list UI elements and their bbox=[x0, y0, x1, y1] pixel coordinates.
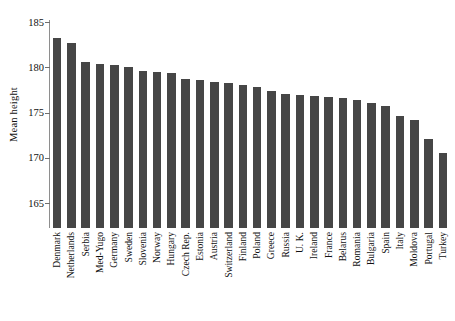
x-tick-label: Finland bbox=[238, 232, 248, 261]
x-tick-label-slot: Netherlands bbox=[64, 228, 78, 321]
y-tick-label: 180 bbox=[28, 60, 44, 75]
x-tick-label-slot: Norway bbox=[150, 228, 164, 321]
bar[interactable] bbox=[96, 64, 105, 228]
x-axis-tick-labels: DenmarkNetherlandsSerbiaMed-YugoGermanyS… bbox=[50, 228, 454, 321]
bar-column[interactable] bbox=[253, 0, 262, 228]
x-tick-label: Germany bbox=[109, 232, 119, 268]
bar[interactable] bbox=[81, 62, 90, 228]
bar[interactable] bbox=[110, 65, 119, 228]
bar[interactable] bbox=[139, 71, 148, 228]
bar[interactable] bbox=[381, 106, 390, 228]
x-tick-label-slot: Czech Rep. bbox=[179, 228, 193, 321]
bar[interactable] bbox=[424, 139, 433, 228]
bar[interactable] bbox=[210, 82, 219, 228]
bar-column[interactable] bbox=[396, 0, 405, 228]
bar-column[interactable] bbox=[267, 0, 276, 228]
bar[interactable] bbox=[196, 80, 205, 228]
x-tick-label: Bulgaria bbox=[366, 232, 376, 265]
x-tick-label: Slovenia bbox=[138, 232, 148, 266]
bar[interactable] bbox=[53, 38, 62, 228]
bar[interactable] bbox=[296, 95, 305, 228]
x-tick-label: Norway bbox=[152, 232, 162, 263]
bar-column[interactable] bbox=[353, 0, 362, 228]
bar[interactable] bbox=[67, 43, 76, 228]
x-tick-label: Portugal bbox=[424, 232, 434, 265]
x-tick-label-slot: Romania bbox=[350, 228, 364, 321]
bar-column[interactable] bbox=[124, 0, 133, 228]
bar[interactable] bbox=[310, 96, 319, 228]
bar[interactable] bbox=[439, 153, 448, 228]
bar-column[interactable] bbox=[239, 0, 248, 228]
bar[interactable] bbox=[396, 116, 405, 228]
y-axis-title: Mean height bbox=[2, 0, 24, 228]
bar[interactable] bbox=[367, 103, 376, 228]
x-tick-label: Austria bbox=[209, 232, 219, 260]
x-tick-label: Belarus bbox=[338, 232, 348, 261]
x-tick-label-slot: Greece bbox=[264, 228, 278, 321]
bar-column[interactable] bbox=[210, 0, 219, 228]
bar-column[interactable] bbox=[139, 0, 148, 228]
bar-column[interactable] bbox=[410, 0, 419, 228]
bar-column[interactable] bbox=[110, 0, 119, 228]
x-tick-label-slot: Finland bbox=[236, 228, 250, 321]
bar[interactable] bbox=[153, 72, 162, 228]
x-tick-label-slot: France bbox=[321, 228, 335, 321]
bar-column[interactable] bbox=[439, 0, 448, 228]
bar-column[interactable] bbox=[339, 0, 348, 228]
bar-column[interactable] bbox=[424, 0, 433, 228]
x-tick-label: Netherlands bbox=[66, 232, 76, 278]
x-tick-label-slot: Med-Yugo bbox=[93, 228, 107, 321]
bar-column[interactable] bbox=[224, 0, 233, 228]
bar[interactable] bbox=[124, 67, 133, 228]
bar[interactable] bbox=[239, 85, 248, 228]
bar-column[interactable] bbox=[367, 0, 376, 228]
x-tick-label-slot: Moldova bbox=[407, 228, 421, 321]
x-tick-label-slot: Estonia bbox=[193, 228, 207, 321]
bar-column[interactable] bbox=[96, 0, 105, 228]
x-tick-label: Italy bbox=[395, 232, 405, 250]
bar[interactable] bbox=[167, 73, 176, 228]
x-tick-label-slot: Spain bbox=[379, 228, 393, 321]
bar[interactable] bbox=[281, 94, 290, 229]
bar-column[interactable] bbox=[381, 0, 390, 228]
bar-column[interactable] bbox=[167, 0, 176, 228]
x-tick-label-slot: Hungary bbox=[164, 228, 178, 321]
x-tick-label-slot: Serbia bbox=[79, 228, 93, 321]
x-tick-label-slot: Turkey bbox=[436, 228, 450, 321]
x-tick-label-slot: Belarus bbox=[336, 228, 350, 321]
x-tick-label-slot: Italy bbox=[393, 228, 407, 321]
x-tick-label-slot: Portugal bbox=[421, 228, 435, 321]
bar-column[interactable] bbox=[53, 0, 62, 228]
bar[interactable] bbox=[410, 120, 419, 228]
bar-column[interactable] bbox=[196, 0, 205, 228]
bar-column[interactable] bbox=[67, 0, 76, 228]
x-tick-label-slot: Austria bbox=[207, 228, 221, 321]
x-tick-label-slot: Ireland bbox=[307, 228, 321, 321]
x-tick-label: Turkey bbox=[438, 232, 448, 259]
y-tick-label: 170 bbox=[28, 150, 44, 165]
bar[interactable] bbox=[181, 79, 190, 228]
x-tick-label-slot: Bulgaria bbox=[364, 228, 378, 321]
x-tick-label: Estonia bbox=[195, 232, 205, 261]
y-axis-title-text: Mean height bbox=[8, 87, 19, 142]
bar[interactable] bbox=[253, 87, 262, 228]
bar-column[interactable] bbox=[310, 0, 319, 228]
bar[interactable] bbox=[267, 91, 276, 228]
bar-column[interactable] bbox=[153, 0, 162, 228]
x-tick-label: Romania bbox=[352, 232, 362, 267]
bar-column[interactable] bbox=[324, 0, 333, 228]
bar-column[interactable] bbox=[181, 0, 190, 228]
bar-column[interactable] bbox=[81, 0, 90, 228]
x-tick-label: France bbox=[324, 232, 334, 258]
mean-height-bar-chart: Mean height 165170175180185 DenmarkNethe… bbox=[0, 0, 455, 321]
bar[interactable] bbox=[324, 97, 333, 228]
bar[interactable] bbox=[339, 98, 348, 228]
x-tick-label-slot: Slovenia bbox=[136, 228, 150, 321]
x-tick-label-slot: U. K. bbox=[293, 228, 307, 321]
bar[interactable] bbox=[353, 100, 362, 228]
bar-column[interactable] bbox=[296, 0, 305, 228]
bar[interactable] bbox=[224, 83, 233, 228]
x-tick-label-slot: Switzerland bbox=[221, 228, 235, 321]
bar-column[interactable] bbox=[281, 0, 290, 228]
x-tick-label-slot: Sweden bbox=[121, 228, 135, 321]
